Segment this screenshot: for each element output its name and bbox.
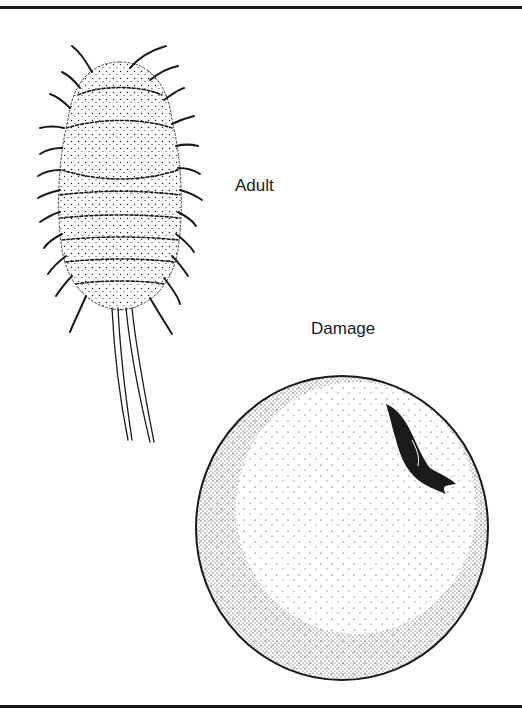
adult-mealybug-drawing [38,46,202,442]
adult-label: Adult [235,176,274,196]
damage-label: Damage [311,319,375,339]
damaged-fruit-drawing [190,370,500,690]
illustration [0,0,522,709]
